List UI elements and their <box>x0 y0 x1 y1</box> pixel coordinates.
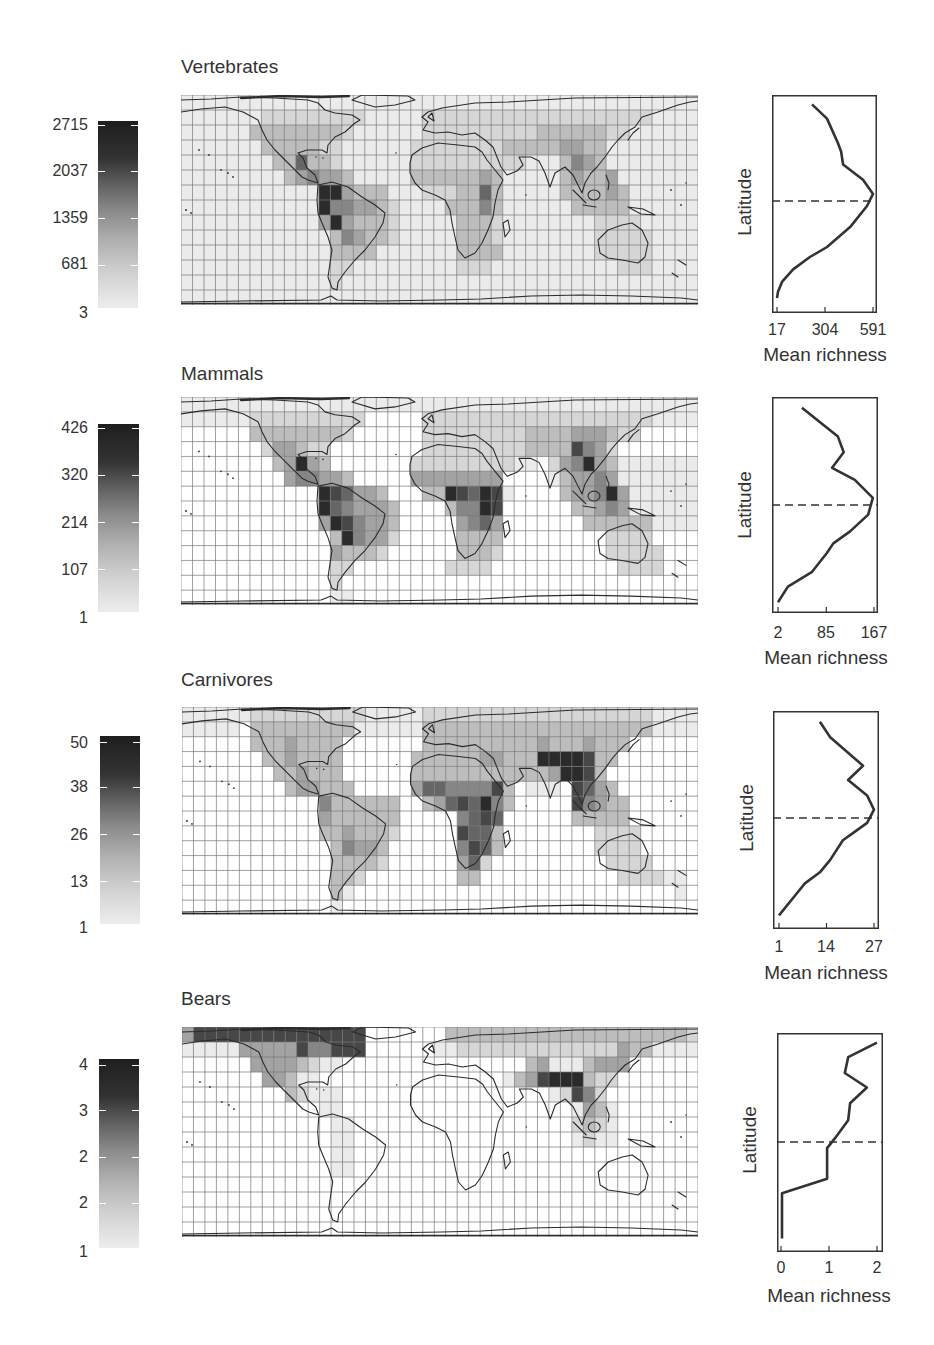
colorbar-label: 1 <box>28 1242 88 1262</box>
colorbar-tick <box>133 834 140 835</box>
x-tick-label: 14 <box>801 937 851 957</box>
colorbar-tick <box>98 475 105 476</box>
colorbar-label: 2037 <box>28 161 88 181</box>
colorbar-label: 320 <box>28 465 88 485</box>
panel-title: Carnivores <box>181 669 273 691</box>
colorbar-tick <box>100 834 107 835</box>
colorbar-label: 426 <box>28 418 88 438</box>
y-axis-label: Latitude <box>734 460 756 550</box>
colorbar-tick <box>98 522 105 523</box>
panel-title: Mammals <box>181 363 263 385</box>
x-axis-label: Mean richness <box>746 647 906 669</box>
colorbar-tick <box>99 1065 106 1066</box>
latitude-profile-plot <box>773 711 879 929</box>
colorbar-gradient <box>99 1059 139 1248</box>
x-tick-label: 0 <box>756 1258 806 1278</box>
colorbar <box>99 1059 139 1248</box>
y-axis-label: Latitude <box>734 157 756 247</box>
colorbar-label: 2 <box>28 1193 88 1213</box>
colorbar-gradient <box>98 121 138 308</box>
colorbar <box>98 121 138 308</box>
colorbar-tick <box>98 428 105 429</box>
colorbar-tick <box>132 1203 139 1204</box>
x-axis-label: Mean richness <box>745 344 905 366</box>
colorbar-tick <box>98 569 105 570</box>
y-axis-label: Latitude <box>739 1095 761 1185</box>
richness-map <box>182 1027 698 1237</box>
plot-frame <box>773 96 877 313</box>
colorbar-label: 13 <box>28 872 88 892</box>
x-tick-label: 167 <box>849 623 899 643</box>
colorbar-label: 214 <box>28 513 88 533</box>
colorbar-tick <box>100 742 107 743</box>
colorbar-tick <box>132 428 139 429</box>
x-tick-label: 2 <box>753 623 803 643</box>
richness-map <box>182 707 698 915</box>
colorbar-label: 1 <box>28 918 88 938</box>
x-tick-label: 27 <box>849 937 899 957</box>
plot-frame <box>774 712 879 929</box>
colorbar-tick <box>131 265 138 266</box>
colorbar-tick <box>131 171 138 172</box>
colorbar-tick <box>132 569 139 570</box>
colorbar-label: 26 <box>28 825 88 845</box>
colorbar-tick <box>100 787 107 788</box>
colorbar-tick <box>131 218 138 219</box>
richness-curve <box>782 1043 877 1239</box>
colorbar-tick <box>131 125 138 126</box>
colorbar-tick <box>99 1157 106 1158</box>
x-tick-label: 85 <box>801 623 851 643</box>
panel-title: Bears <box>181 988 231 1010</box>
panel-title: Vertebrates <box>181 56 278 78</box>
richness-map <box>181 397 698 605</box>
x-tick-label: 1 <box>754 937 804 957</box>
x-tick-label: 2 <box>852 1258 902 1278</box>
x-tick-label: 17 <box>752 320 802 340</box>
colorbar-gradient <box>100 736 140 924</box>
richness-map <box>181 95 698 305</box>
colorbar-label: 38 <box>28 777 88 797</box>
colorbar-label: 4 <box>28 1055 88 1075</box>
colorbar-tick <box>98 125 105 126</box>
colorbar-tick <box>132 475 139 476</box>
colorbar-tick <box>133 881 140 882</box>
colorbar-label: 1359 <box>28 208 88 228</box>
x-tick-label: 1 <box>804 1258 854 1278</box>
colorbar-tick <box>133 787 140 788</box>
colorbar-label: 1 <box>28 608 88 628</box>
colorbar-tick <box>132 1110 139 1111</box>
colorbar-tick <box>132 522 139 523</box>
latitude-profile-plot <box>777 1033 883 1252</box>
colorbar-label: 107 <box>28 560 88 580</box>
colorbar <box>100 736 140 924</box>
colorbar-tick <box>99 1110 106 1111</box>
y-axis-label: Latitude <box>736 773 758 863</box>
colorbar-tick <box>98 265 105 266</box>
x-axis-label: Mean richness <box>746 962 906 984</box>
latitude-profile-plot <box>772 397 878 613</box>
colorbar-label: 3 <box>28 303 88 323</box>
colorbar-label: 3 <box>28 1101 88 1121</box>
colorbar-tick <box>132 1157 139 1158</box>
x-tick-label: 591 <box>848 320 898 340</box>
colorbar-label: 2 <box>28 1147 88 1167</box>
colorbar-tick <box>133 742 140 743</box>
colorbar-label: 50 <box>28 733 88 753</box>
colorbar-tick <box>98 218 105 219</box>
colorbar-tick <box>100 881 107 882</box>
colorbar-label: 2715 <box>28 115 88 135</box>
colorbar-tick <box>98 171 105 172</box>
colorbar-tick <box>99 1203 106 1204</box>
latitude-profile-plot <box>772 95 877 313</box>
x-tick-label: 304 <box>800 320 850 340</box>
colorbar-tick <box>132 1065 139 1066</box>
colorbar-gradient <box>98 424 139 612</box>
x-axis-label: Mean richness <box>749 1285 909 1307</box>
colorbar <box>98 424 139 612</box>
colorbar-label: 681 <box>28 254 88 274</box>
